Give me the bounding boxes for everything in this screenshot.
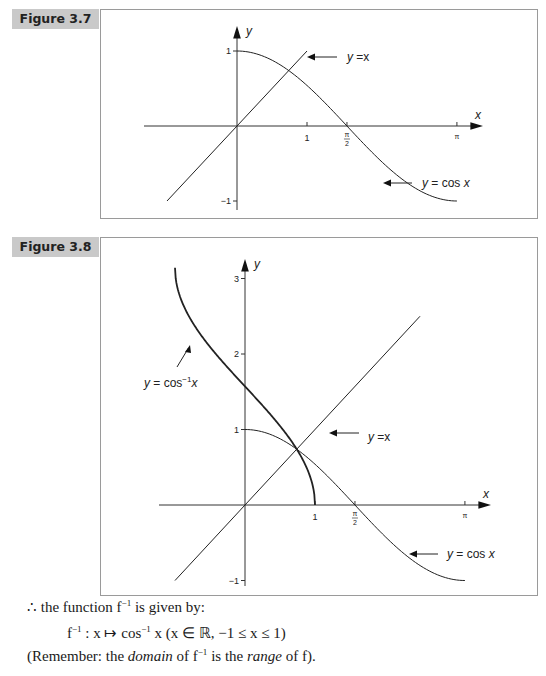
fig37-y-tick-label: −1 bbox=[221, 196, 231, 206]
fig38-x-axis-arrow-icon bbox=[478, 501, 491, 509]
fig38-x-tick-label: 1 bbox=[312, 512, 317, 522]
figure-3-8-box: xy1π2π321−1y =xy = cos xy = cos−1x bbox=[100, 237, 538, 596]
fig37-y-tick-label: 1 bbox=[226, 46, 231, 56]
fig38-arccos-arrow-icon bbox=[185, 345, 191, 353]
fig38-annotation-arccos: y = cos−1x bbox=[143, 375, 198, 390]
text-line-therefore: ∴ the function f−1 is given by: bbox=[27, 598, 205, 616]
fig37-annotation-cos: y = cos x bbox=[421, 176, 471, 190]
fig37-line-arrow-icon-head bbox=[307, 53, 315, 60]
fig37-x-tick-label: 1 bbox=[304, 133, 309, 143]
fig38-x-tick-label-num: π bbox=[353, 510, 358, 517]
figure-3-7-label: Figure 3.7 bbox=[12, 9, 99, 29]
fig38-annotation-line: y =x bbox=[367, 430, 390, 444]
fig38-line-arrow-icon-head bbox=[329, 429, 337, 436]
fig38-x-axis-label: x bbox=[482, 487, 490, 501]
fig38-line-y-equals-x bbox=[175, 316, 420, 580]
figure-3-8-label: Figure 3.8 bbox=[12, 237, 99, 257]
fig38-y-axis-label: y bbox=[253, 257, 261, 271]
fig37-x-tick-label-den: 2 bbox=[345, 140, 349, 147]
fig37-cos-arrow-icon-head bbox=[383, 179, 391, 186]
fig38-y-axis-arrow-icon bbox=[241, 259, 249, 272]
text-line-definition: f−1 : x ↦ cos−1 x (x ∈ ℝ, −1 ≤ x ≤ 1) bbox=[67, 624, 286, 642]
fig38-y-tick-label: 2 bbox=[234, 349, 239, 359]
figure-3-7-box: xy1π2π1−1y =xy = cos x bbox=[100, 9, 538, 219]
fig38-annotation-cos: y = cos x bbox=[446, 547, 496, 561]
fig38-y-tick-label: 3 bbox=[234, 274, 239, 284]
fig38-y-tick-label: 1 bbox=[234, 425, 239, 435]
text-line-remember: (Remember: the domain of f−1 is the rang… bbox=[27, 648, 316, 665]
fig37-x-tick-label-num: π bbox=[345, 131, 350, 138]
fig38-x-tick-label-den: 2 bbox=[353, 519, 357, 526]
fig37-x-axis-label: x bbox=[474, 108, 482, 122]
fig37-x-axis-arrow-icon bbox=[470, 122, 483, 130]
fig37-y-axis-label: y bbox=[245, 24, 253, 38]
figure-3-7-chart: xy1π2π1−1y =xy = cos x bbox=[101, 10, 537, 218]
fig37-y-axis-arrow-icon bbox=[233, 26, 241, 39]
fig38-cos-arrow-icon-head bbox=[409, 550, 417, 557]
fig38-x-tick-label: π bbox=[462, 512, 467, 519]
fig37-x-tick-label: π bbox=[454, 133, 459, 140]
figure-3-8-chart: xy1π2π321−1y =xy = cos xy = cos−1x bbox=[101, 238, 537, 595]
fig38-y-tick-label: −1 bbox=[229, 576, 239, 586]
fig37-annotation-line: y =x bbox=[346, 50, 369, 64]
